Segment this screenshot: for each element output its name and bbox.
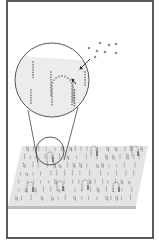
nucleotide-dot [30, 94, 32, 96]
nucleotide-dot [52, 82, 54, 84]
free-molecule-dot [96, 50, 99, 53]
nucleotide-dot [51, 93, 53, 95]
nucleotide-dot [32, 77, 34, 79]
nucleotide-dot [71, 91, 73, 93]
nucleotide-dot [51, 91, 53, 93]
nucleotide-dot [71, 98, 73, 100]
nucleotide-dot [84, 81, 86, 83]
target-dot [73, 105, 75, 107]
nucleotide-dot [53, 79, 55, 81]
free-molecule-dot [108, 44, 111, 47]
nucleotide-dot [69, 79, 71, 81]
free-molecule-dot [115, 52, 118, 55]
nucleotide-dot [71, 101, 73, 103]
target-dot [73, 102, 75, 104]
surface-edge [8, 206, 136, 209]
nucleotide-dot [30, 89, 32, 91]
nucleotide-dot [51, 88, 53, 90]
substrate-surface [8, 145, 148, 209]
figure-canvas [0, 0, 159, 245]
free-molecule-dot [104, 51, 107, 54]
nucleotide-dot [50, 76, 52, 78]
nucleotide-dot [71, 82, 73, 84]
nucleotide-dot [32, 61, 34, 63]
nucleotide-dot [32, 69, 34, 71]
free-molecule-dot [88, 47, 91, 50]
nucleotide-dot [55, 77, 57, 79]
nucleotide-dot [61, 75, 63, 77]
nucleotide-dot [84, 79, 86, 81]
nucleotide-dot [84, 71, 86, 73]
target-dot [73, 92, 75, 94]
nucleotide-dot [84, 76, 86, 78]
nucleotide-dot [71, 104, 73, 106]
nucleotide-dot [84, 74, 86, 76]
molecular-surface-diagram [0, 0, 159, 245]
nucleotide-dot [51, 98, 53, 100]
nucleotide-dot [71, 85, 73, 87]
nucleotide-dot [30, 102, 32, 104]
nucleotide-dot [32, 74, 34, 76]
nucleotide-dot [51, 96, 53, 98]
target-dot [73, 94, 75, 96]
nucleotide-dot [30, 92, 32, 94]
nucleotide-dot [58, 76, 60, 78]
target-dot [73, 99, 75, 101]
nucleotide-dot [67, 77, 69, 79]
nucleotide-dot [71, 88, 73, 90]
free-molecule-dot [94, 56, 97, 59]
free-molecule-dot [99, 42, 102, 45]
nucleotide-dot [50, 79, 52, 81]
nucleotide-dot [71, 96, 73, 98]
nucleotide-dot [32, 66, 34, 68]
nucleotide-dot [50, 74, 52, 76]
nucleotide-dot [84, 84, 86, 86]
nucleotide-dot [51, 101, 53, 103]
nucleotide-dot [51, 85, 53, 87]
nucleotide-dot [64, 76, 66, 78]
nucleotide-dot [51, 104, 53, 106]
nucleotide-dot [32, 71, 34, 73]
nucleotide-dot [30, 99, 32, 101]
target-dot [73, 97, 75, 99]
nucleotide-dot [71, 93, 73, 95]
target-dot [73, 89, 75, 91]
nucleotide-dot [50, 71, 52, 73]
nucleotide-dot [30, 97, 32, 99]
nucleotide-dot [32, 64, 34, 66]
free-molecule-dot [115, 43, 118, 46]
